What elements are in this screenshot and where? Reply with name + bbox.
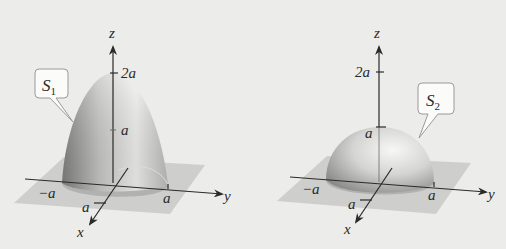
x-axis-label: x xyxy=(76,224,84,240)
tick-label-2a: 2a xyxy=(355,64,370,80)
callout-subscript: 1 xyxy=(51,85,57,97)
figure-left-paraboloid: z 2a a −a a y a x S1 xyxy=(14,25,231,240)
figure-right-hemisphere: z 2a a −a a y a x S2 xyxy=(277,25,495,237)
tick-label-z-a: a xyxy=(365,125,373,141)
y-axis-label: y xyxy=(486,186,495,202)
y-axis-label: y xyxy=(222,188,231,204)
tick-label-z-a: a xyxy=(121,122,129,138)
tick-label-x-a: a xyxy=(82,199,90,215)
tick-label-x-a: a xyxy=(348,196,356,212)
tick-label-y-a: a xyxy=(163,190,171,206)
surface-callout-s2: S2 xyxy=(418,83,454,138)
z-axis-label: z xyxy=(373,25,380,41)
tick-label-y-neg-a: −a xyxy=(38,185,56,201)
hemisphere-surface xyxy=(326,127,434,193)
tick-label-y-a: a xyxy=(428,187,436,203)
figure-canvas: z 2a a −a a y a x S1 z 2a a −a a y xyxy=(0,0,506,249)
z-axis-label: z xyxy=(108,25,115,41)
surface-callout-s1: S1 xyxy=(35,69,73,122)
tick-label-y-neg-a: −a xyxy=(302,181,320,197)
x-axis-label: x xyxy=(343,221,351,237)
tick-label-2a: 2a xyxy=(121,65,136,81)
callout-subscript: 2 xyxy=(435,100,441,112)
